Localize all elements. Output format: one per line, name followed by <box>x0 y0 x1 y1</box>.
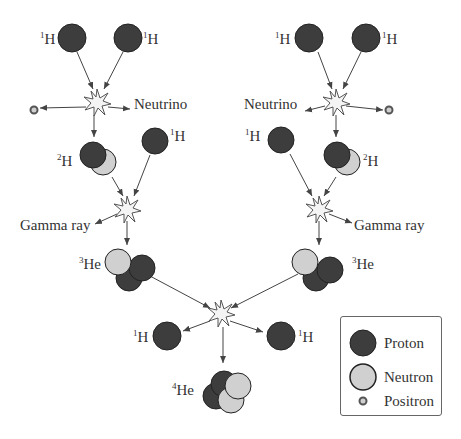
fusion-star-icon <box>84 89 111 116</box>
legend-label-proton: Proton <box>384 335 424 352</box>
neutron-icon <box>292 249 318 275</box>
isotope-label-h1: 1H <box>40 31 55 47</box>
isotope-label-h2: 2H <box>57 153 72 169</box>
legend-label-neutron: Neutron <box>384 369 433 386</box>
isotope-label-he3: 3He <box>79 256 101 272</box>
proton-icon <box>80 142 106 168</box>
positron-icon <box>360 398 367 405</box>
proton-icon <box>153 322 181 350</box>
neutrino-label: Neutrino <box>244 97 297 112</box>
neutron-icon <box>105 249 131 275</box>
fusion-star-icon <box>208 300 235 327</box>
proton-icon <box>142 128 168 154</box>
fusion-star-icon <box>323 89 350 116</box>
proton-icon <box>352 24 380 52</box>
gamma-ray-label: Gamma ray <box>20 218 90 233</box>
isotope-label-h1: 1H <box>170 128 185 144</box>
gamma-ray-label: Gamma ray <box>354 218 424 233</box>
neutrino-label: Neutrino <box>134 97 187 112</box>
positron-icon <box>386 107 393 114</box>
isotope-label-h1: 1H <box>382 31 397 47</box>
isotope-label-h1: 1H <box>275 31 290 47</box>
positron-icon <box>31 107 38 114</box>
isotope-label-he3: 3He <box>352 256 374 272</box>
legend: Proton Neutron Positron <box>340 316 442 416</box>
isotope-label-h1: 1H <box>143 31 158 47</box>
isotope-label-he4: 4He <box>172 382 194 398</box>
isotope-label-h1: 1H <box>245 128 260 144</box>
fusion-star-icon <box>114 196 141 223</box>
legend-label-positron: Positron <box>384 393 434 410</box>
proton-icon <box>267 322 295 350</box>
proton-icon <box>324 142 350 168</box>
proton-icon <box>129 255 155 281</box>
proton-icon <box>268 127 294 153</box>
neutron-icon <box>350 364 376 390</box>
proton-icon <box>295 24 323 52</box>
proton-icon <box>58 24 86 52</box>
isotope-label-h1: 1H <box>133 329 148 345</box>
neutron-icon <box>225 373 251 399</box>
fusion-star-icon <box>306 196 333 223</box>
proton-icon <box>317 257 343 283</box>
proton-icon <box>350 330 376 356</box>
proton-icon <box>114 24 142 52</box>
isotope-label-h2: 2H <box>363 153 378 169</box>
isotope-label-h1: 1H <box>298 329 313 345</box>
